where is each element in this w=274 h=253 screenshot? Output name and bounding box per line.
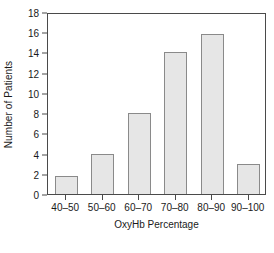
y-axis-tick-label: 0 (33, 190, 39, 201)
y-axis-tick-label: 8 (33, 109, 39, 120)
bar (237, 164, 260, 194)
x-axis-tick-label: 90–100 (231, 202, 264, 213)
x-axis-tick-label: 70–80 (161, 202, 189, 213)
x-axis-tick-mark (65, 195, 66, 200)
y-axis-tick-label: 16 (28, 28, 39, 39)
y-axis-tick-label: 14 (28, 48, 39, 59)
bar (164, 52, 187, 194)
y-axis-tick-label: 2 (33, 169, 39, 180)
y-axis-tick-label: 4 (33, 149, 39, 160)
y-axis-tick-label: 18 (28, 8, 39, 19)
x-axis-tick-label: 60–70 (124, 202, 152, 213)
y-axis-tick-label: 6 (33, 129, 39, 140)
bar (201, 34, 224, 194)
x-axis-tick-mark (175, 195, 176, 200)
x-axis-title: OxyHb Percentage (47, 219, 266, 230)
x-axis-tick-label: 40–50 (51, 202, 79, 213)
y-axis-tick-label: 12 (28, 68, 39, 79)
y-axis-title-label: Number of Patients (4, 60, 15, 147)
x-axis-tick-mark (102, 195, 103, 200)
y-axis-tick-labels: 024681012141618 (18, 0, 42, 208)
x-axis-tick-labels: 40–5050–6060–7070–8080–9090–100 (47, 202, 266, 218)
x-axis-tick-mark (211, 195, 212, 200)
x-axis-tick-mark (248, 195, 249, 200)
bar (128, 113, 151, 194)
bar-chart: Number of Patients 024681012141618 40–50… (0, 0, 274, 253)
x-axis-tick-label: 80–90 (197, 202, 225, 213)
bars-layer (48, 14, 265, 194)
bar (55, 176, 78, 194)
x-axis-tick-label: 50–60 (88, 202, 116, 213)
x-axis-tick-mark (138, 195, 139, 200)
x-axis-tick-marks (47, 195, 266, 201)
plot-area (47, 13, 266, 195)
bar (91, 154, 114, 194)
y-axis-title: Number of Patients (0, 0, 18, 208)
y-axis-tick-label: 10 (28, 88, 39, 99)
